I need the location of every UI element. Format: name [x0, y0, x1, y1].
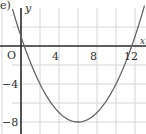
grid-lines: [2, 8, 146, 134]
x-tick-label-4: 4: [52, 51, 59, 62]
y-axis-label: y: [25, 3, 31, 14]
x-axis-label: x: [140, 37, 145, 46]
part-label: e): [0, 0, 11, 11]
x-tick-label-12: 12: [124, 51, 138, 62]
x-tick-label-8: 8: [90, 51, 97, 62]
y-tick-label-neg8: −8: [2, 117, 18, 128]
y-tick-label-neg4: −4: [2, 79, 18, 90]
origin-label: O: [7, 50, 16, 61]
parabola-graph: [0, 0, 146, 134]
